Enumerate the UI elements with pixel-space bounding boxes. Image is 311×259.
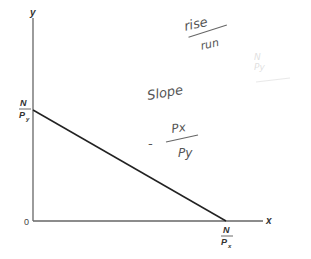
svg-text:N: N xyxy=(223,225,230,235)
y-axis-label: y xyxy=(29,7,36,18)
handwritten-rise-over-run: rise run xyxy=(183,10,232,55)
svg-text:-: - xyxy=(148,136,153,151)
faint-handwritten-note: N Py xyxy=(254,52,290,82)
svg-text:run: run xyxy=(199,36,220,53)
svg-text:y: y xyxy=(25,116,30,122)
svg-text:Px: Px xyxy=(170,120,187,136)
svg-text:x: x xyxy=(227,243,232,249)
x-axis-label: x xyxy=(265,215,272,226)
svg-text:P: P xyxy=(221,237,228,247)
svg-text:rise: rise xyxy=(183,14,209,34)
svg-text:P: P xyxy=(19,110,26,120)
origin-label: 0 xyxy=(24,217,29,227)
svg-text:Py: Py xyxy=(178,146,193,160)
svg-text:N: N xyxy=(20,98,27,108)
budget-line-diagram: y x 0 N P y N P x rise run Slope - Px Py… xyxy=(0,0,311,259)
svg-text:Py: Py xyxy=(254,62,265,72)
handwritten-slope-label: Slope xyxy=(146,82,184,103)
handwritten-slope-formula: - Px Py xyxy=(148,120,198,160)
x-intercept-label: N P x xyxy=(221,225,233,249)
svg-text:N: N xyxy=(254,52,261,62)
y-intercept-label: N P y xyxy=(19,98,31,122)
budget-line xyxy=(33,110,226,221)
